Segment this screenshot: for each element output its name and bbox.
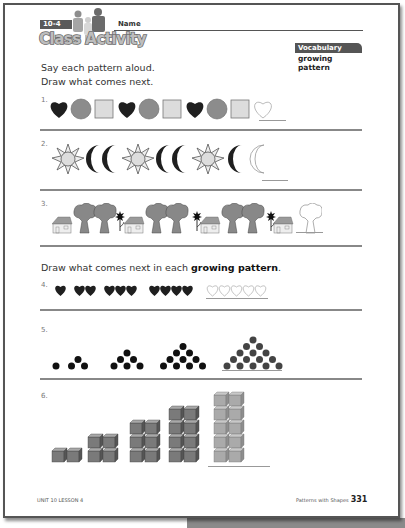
dot-triangle-10 [160, 343, 206, 370]
dot-triangle-6 [111, 350, 144, 370]
answer-line-1[interactable] [259, 120, 286, 121]
house-icon [52, 217, 72, 233]
divider [40, 189, 362, 191]
moon-icon [228, 145, 242, 173]
instruction-text: Draw what comes next in each [41, 262, 191, 273]
sun-icon [52, 144, 84, 174]
lesson-badge: 10-4 [40, 20, 72, 29]
name-input-line[interactable] [114, 30, 363, 31]
cube-stack-8 [169, 406, 199, 462]
circle-icon [139, 99, 159, 119]
problem-4-pattern [51, 282, 281, 298]
footer-unit-lesson: UNIT 10 LESSON 4 [37, 497, 83, 503]
answer-line-2[interactable] [262, 180, 288, 181]
footer-topic: Patterns with Shapes [296, 497, 349, 503]
cube-stack-10-answer [214, 392, 244, 462]
circle-icon [71, 99, 91, 119]
divider [40, 129, 362, 131]
answer-line-5[interactable] [222, 370, 282, 371]
problem-4-number: 4. [41, 281, 48, 289]
divider [40, 309, 362, 311]
instruction-line-1: Say each pattern aloud. [41, 62, 155, 73]
problem-2-pattern [52, 142, 292, 178]
moon-outline-icon [250, 145, 264, 173]
problem-2-number: 2. [41, 140, 48, 148]
instruction-term: growing pattern [191, 262, 278, 273]
house-icon [273, 217, 293, 233]
answer-line-3[interactable] [296, 232, 323, 233]
tree-icon [166, 203, 188, 233]
sun-icon [122, 144, 154, 174]
instruction-line-2: Draw what comes next. [41, 76, 153, 87]
problem-1-number: 1. [41, 96, 48, 104]
circle-icon [207, 99, 227, 119]
problem-6-number: 6. [41, 392, 48, 400]
divider [40, 245, 362, 247]
house-icon [124, 217, 144, 233]
growing-pattern-instruction: Draw what comes next in each growing pat… [41, 262, 281, 273]
tree-icon [146, 203, 168, 233]
cube-stack-6 [130, 420, 160, 462]
square-icon [163, 100, 181, 118]
tree-icon [222, 203, 244, 233]
heart-group-2 [74, 286, 96, 296]
moon-icon [156, 145, 170, 173]
problem-5-number: 5. [41, 326, 48, 334]
dot-triangle-3 [68, 356, 88, 370]
answer-line-6[interactable] [208, 466, 270, 467]
tree-icon [74, 203, 96, 233]
heart-outline-icon [255, 102, 272, 118]
sun-icon [192, 144, 224, 174]
problem-5-pattern [50, 322, 290, 372]
problem-6-pattern [50, 388, 280, 468]
name-label: Name [118, 20, 141, 28]
flower-icon [192, 211, 202, 231]
tree-outline-icon [300, 203, 322, 233]
cube-stack-2 [52, 448, 82, 462]
dot-triangle-15-answer [224, 337, 283, 370]
heart-outline-group [207, 286, 266, 296]
heart-icon [119, 102, 136, 118]
heart-group-1 [55, 286, 66, 296]
heart-icon [187, 102, 204, 118]
divider [40, 378, 362, 380]
page-title: Class Activity [39, 30, 146, 48]
moon-icon [172, 145, 186, 173]
tree-icon [94, 203, 116, 233]
problem-3-pattern [52, 203, 322, 235]
page-number: 331 [351, 495, 368, 504]
tree-icon [242, 203, 264, 233]
vocabulary-term: growing pattern [295, 53, 362, 73]
background-bar [187, 518, 405, 528]
house-icon [200, 217, 220, 233]
square-icon [231, 100, 249, 118]
vocabulary-box: Vocabulary growing pattern [295, 43, 362, 73]
vocabulary-heading: Vocabulary [295, 43, 362, 53]
flower-icon [115, 211, 125, 231]
instruction-suffix: . [278, 262, 281, 273]
answer-line-4[interactable] [206, 298, 268, 299]
problem-1-pattern [50, 96, 290, 122]
problem-3-number: 3. [41, 200, 48, 208]
moon-icon [102, 145, 116, 173]
footer-page-info: Patterns with Shapes331 [296, 495, 367, 504]
cube-stack-4 [88, 434, 118, 462]
heart-group-3 [104, 286, 137, 296]
dot-triangle-1 [53, 363, 60, 370]
moon-icon [86, 145, 100, 173]
square-icon [95, 100, 113, 118]
heart-group-4 [149, 286, 193, 296]
heart-icon [51, 102, 68, 118]
